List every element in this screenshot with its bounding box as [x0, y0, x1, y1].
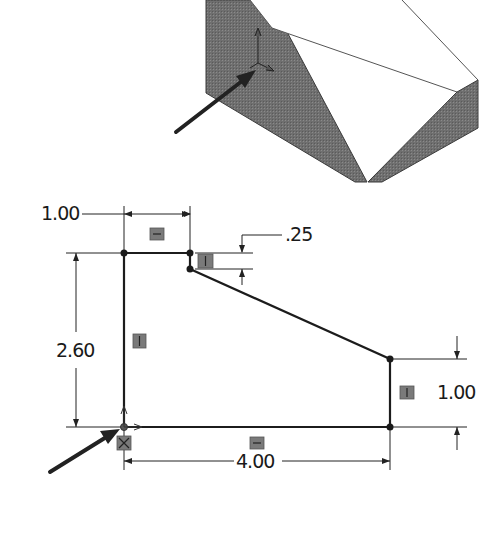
relation-vertical-right-icon[interactable] [400, 386, 414, 399]
right-shaded-face [368, 80, 478, 182]
dimension-step-height-value: .25 [285, 223, 312, 245]
sketch-view: 1.00 .25 2.60 1.00 [41, 202, 475, 472]
relation-vertical-left-icon[interactable] [133, 334, 146, 348]
vertex-bottom-right[interactable] [387, 424, 394, 431]
sketch-origin-pointer-arrow [50, 429, 120, 472]
relation-vertical-step-icon[interactable] [198, 254, 213, 268]
dimension-right-height[interactable]: 1.00 [437, 336, 475, 450]
vertex-top-step[interactable] [187, 250, 194, 257]
vertex-top-left[interactable] [121, 250, 128, 257]
dimension-top-width[interactable]: 1.00 [41, 202, 190, 224]
dimension-overall-height[interactable]: 2.60 [56, 253, 94, 427]
vertex-step-bottom[interactable] [187, 266, 194, 273]
vertex-right-top[interactable] [387, 356, 394, 363]
sketch-profile[interactable] [124, 253, 390, 427]
dimension-top-width-value: 1.00 [41, 202, 79, 224]
dimension-overall-height-value: 2.60 [56, 339, 94, 361]
relation-horizontal-bottom-icon[interactable] [250, 437, 264, 449]
sketch-origin-icon [121, 406, 143, 431]
dimension-overall-width[interactable]: 4.00 [124, 450, 390, 472]
isometric-view [176, 0, 478, 182]
dimension-overall-width-value: 4.00 [236, 450, 274, 472]
relation-coincident-origin-icon[interactable] [117, 436, 131, 450]
dimension-right-height-value: 1.00 [437, 381, 475, 403]
extension-lines [66, 206, 467, 470]
drawing-canvas: 1.00 .25 2.60 1.00 [0, 0, 490, 553]
dimension-step-height[interactable]: .25 [239, 223, 312, 285]
relation-horizontal-top-icon[interactable] [150, 228, 164, 240]
sketch-vertices [121, 250, 394, 431]
